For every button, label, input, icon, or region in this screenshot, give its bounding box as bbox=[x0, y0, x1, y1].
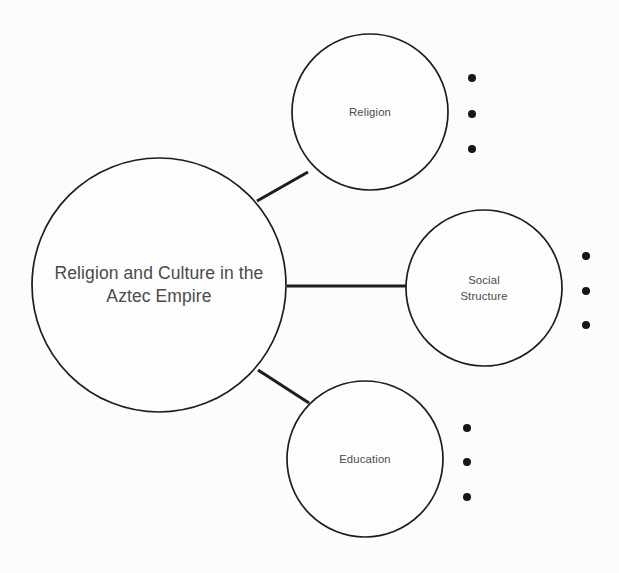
bullet-dot-religion-1 bbox=[468, 74, 476, 82]
bullet-dot-social-structure-3 bbox=[582, 321, 590, 329]
bullet-dot-education-1 bbox=[463, 424, 471, 432]
concept-map-graphics bbox=[0, 0, 619, 573]
connector-central-to-education bbox=[258, 370, 309, 403]
concept-map-canvas: Religion and Culture in the Aztec Empire… bbox=[0, 0, 619, 573]
branch-node-circle-religion[interactable] bbox=[292, 34, 448, 190]
branch-node-circle-education[interactable] bbox=[287, 381, 443, 537]
central-node-circle[interactable] bbox=[32, 158, 286, 412]
bullet-dot-social-structure-2 bbox=[582, 287, 590, 295]
bullet-dot-education-2 bbox=[463, 458, 471, 466]
bullet-dot-education-3 bbox=[463, 493, 471, 501]
bullet-dot-religion-3 bbox=[468, 145, 476, 153]
bullet-dot-religion-2 bbox=[468, 110, 476, 118]
connector-central-to-religion bbox=[257, 172, 308, 201]
bullet-dot-social-structure-1 bbox=[582, 252, 590, 260]
branch-node-circle-social-structure[interactable] bbox=[406, 210, 562, 366]
